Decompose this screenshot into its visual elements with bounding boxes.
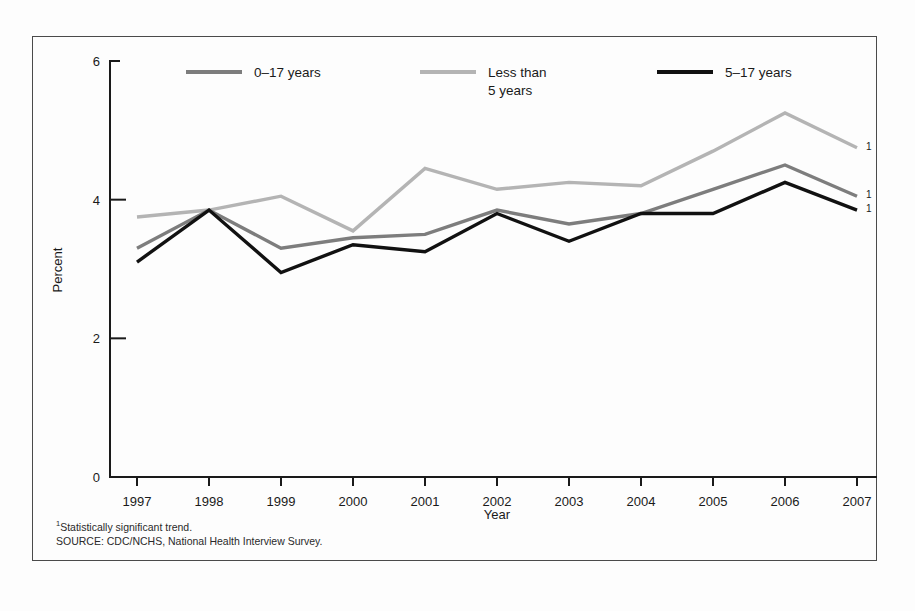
x-tick-label: 2003: [555, 494, 584, 509]
legend-label: Less than: [488, 65, 547, 80]
x-tick-label: 2004: [627, 494, 656, 509]
y-tick-label: 2: [93, 331, 100, 346]
x-tick-label: 2007: [843, 494, 872, 509]
x-tick-label: 2000: [339, 494, 368, 509]
x-tick-label: 2005: [699, 494, 728, 509]
y-tick-label: 0: [93, 470, 100, 485]
series-endpoint-footnote-marker: 1: [866, 189, 872, 200]
y-axis-title: Percent: [50, 247, 65, 292]
x-tick-label: 1999: [267, 494, 296, 509]
chart-axes: 0246 19971998199920002001200220032004200…: [50, 54, 877, 522]
series-footnote-markers: 111: [866, 141, 872, 214]
chart-series: [137, 113, 857, 272]
legend-label-line2: 5 years: [488, 83, 533, 98]
x-axis-title: Year: [484, 507, 511, 522]
x-tick-label: 2006: [771, 494, 800, 509]
footnote-text: Statistically significant trend.: [60, 521, 192, 533]
x-tick-label: 1998: [195, 494, 224, 509]
footnotes-block: 1Statistically significant trend. SOURCE…: [56, 519, 322, 548]
x-tick-label: 1997: [123, 494, 152, 509]
y-tick-label: 4: [93, 193, 100, 208]
series-endpoint-footnote-marker: 1: [866, 203, 872, 214]
y-tick-label: 6: [93, 54, 100, 69]
x-axis-ticks: 1997199819992000200120022003200420052006…: [123, 477, 872, 509]
series-line-0: [137, 165, 857, 248]
figure-root: 0–17 yearsLess than5 years5–17 years 024…: [0, 0, 915, 611]
series-endpoint-footnote-marker: 1: [866, 141, 872, 152]
x-tick-label: 2001: [411, 494, 440, 509]
legend-entry-1: Less than5 years: [420, 65, 547, 98]
footnote-significance: 1Statistically significant trend.: [56, 519, 322, 534]
chart-legend: 0–17 yearsLess than5 years5–17 years: [186, 65, 792, 98]
legend-entry-2: 5–17 years: [657, 65, 792, 80]
legend-label: 0–17 years: [254, 65, 321, 80]
y-axis-line: [110, 61, 120, 477]
legend-label: 5–17 years: [725, 65, 792, 80]
legend-entry-0: 0–17 years: [186, 65, 321, 80]
footnote-source: SOURCE: CDC/NCHS, National Health Interv…: [56, 534, 322, 548]
